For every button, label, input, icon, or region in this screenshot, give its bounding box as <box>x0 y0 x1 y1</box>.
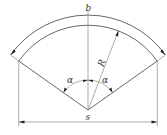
radius-line <box>88 31 119 111</box>
angle-arrow-right-top-icon <box>88 80 93 83</box>
chord-arrow-left-icon <box>19 121 25 124</box>
angle-arrow-left-top-icon <box>83 80 88 83</box>
extension-right <box>157 55 165 61</box>
angle-arrow-right-end-icon <box>109 88 113 93</box>
angle-arc-right <box>88 80 113 93</box>
angle-arrow-left-end-icon <box>64 88 68 93</box>
chord-arrow-right-icon <box>152 121 158 124</box>
radius-arrow-icon <box>115 31 118 37</box>
label-alpha-left: α <box>67 75 73 85</box>
sector-leg-left <box>19 61 88 110</box>
arrow-right-icon <box>160 50 165 56</box>
extension-left <box>11 55 19 61</box>
sector-diagram: b s R α α <box>0 0 167 135</box>
label-r: R <box>95 58 107 69</box>
label-b: b <box>86 3 92 13</box>
sector-leg-right <box>88 61 157 110</box>
arrow-left-icon <box>11 50 16 56</box>
label-s: s <box>86 112 91 122</box>
label-alpha-right: α <box>102 75 108 85</box>
